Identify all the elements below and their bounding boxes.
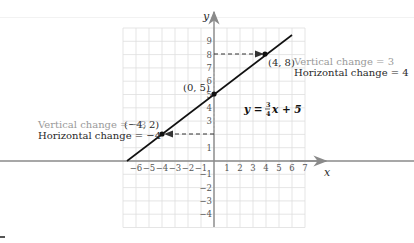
svg-text:−4: −4 <box>199 209 212 219</box>
point-0-5 <box>211 91 216 96</box>
svg-text:−4: −4 <box>156 163 169 173</box>
svg-text:−2: −2 <box>199 183 212 193</box>
x-tick-labels: −6−5−4−3−2−11234567 <box>130 163 308 173</box>
svg-text:5: 5 <box>276 163 281 173</box>
point-label-0-5: (0, 5) <box>183 82 210 93</box>
equation: y = 3 4 x + 5 <box>243 101 302 118</box>
svg-text:7: 7 <box>207 63 212 73</box>
x-axis-label: x <box>324 166 331 179</box>
svg-text:9: 9 <box>207 36 212 46</box>
svg-text:4: 4 <box>207 103 212 113</box>
svg-text:−2: −2 <box>182 163 195 173</box>
svg-text:−3: −3 <box>199 196 212 206</box>
svg-text:6: 6 <box>289 163 294 173</box>
svg-text:−1: −1 <box>199 169 212 179</box>
point-label-4-8: (4, 8) <box>268 57 295 68</box>
svg-text:2: 2 <box>237 163 242 173</box>
svg-text:1: 1 <box>224 163 229 173</box>
svg-text:x + 5: x + 5 <box>271 103 302 115</box>
svg-text:3: 3 <box>207 116 212 126</box>
svg-text:7: 7 <box>302 163 307 173</box>
horizontal-change-negative: Horizontal change = −4 <box>38 130 161 141</box>
y-axis-label: y <box>202 10 210 23</box>
svg-text:3: 3 <box>266 101 271 109</box>
line-chart: x y −6−5−4−3−2−11234567 −4−3−2−113456789… <box>0 0 414 243</box>
svg-text:−5: −5 <box>143 163 156 173</box>
svg-text:4: 4 <box>263 163 268 173</box>
svg-text:3: 3 <box>250 163 255 173</box>
svg-text:1: 1 <box>207 143 212 153</box>
svg-text:8: 8 <box>207 50 212 60</box>
vertical-change-negative: Vertical change = −3 <box>37 119 146 130</box>
svg-text:4: 4 <box>266 110 271 118</box>
vertical-change-positive: Vertical change = 3 <box>293 56 394 67</box>
svg-text:−6: −6 <box>130 163 143 173</box>
horizontal-change-positive: Horizontal change = 4 <box>294 67 409 78</box>
point-4-8 <box>262 51 267 56</box>
svg-text:−3: −3 <box>169 163 182 173</box>
svg-text:y =: y = <box>243 103 263 115</box>
